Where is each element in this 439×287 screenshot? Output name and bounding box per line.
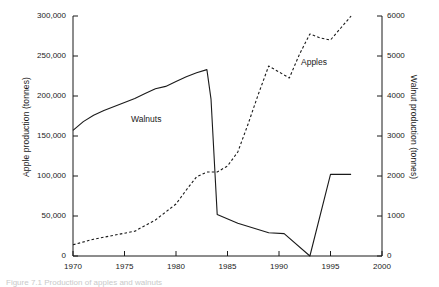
x-axis-tick-label: 2000 [362, 262, 402, 271]
y-axis-right-ticks [377, 16, 382, 256]
x-axis-tick-label: 1980 [156, 262, 196, 271]
series-annotation-apples: Apples [301, 57, 327, 67]
y-axis-right-tick-label: 3000 [387, 131, 427, 140]
y-axis-right-tick-label: 2000 [387, 171, 427, 180]
x-axis-tick-label: 1995 [311, 262, 351, 271]
x-axis-tick-label: 1970 [53, 262, 93, 271]
x-axis-tick-label: 1990 [259, 262, 299, 271]
y-axis-right-tick-label: 4000 [387, 91, 427, 100]
y-axis-left-tick-label: 100,000 [18, 171, 66, 180]
y-axis-left-tick-label: 250,000 [18, 51, 66, 60]
x-axis-ticks [73, 251, 382, 256]
figure-caption-text: Figure 7.1 Production of apples and waln… [6, 279, 162, 287]
y-axis-right-tick-label: 5000 [387, 51, 427, 60]
figure-container: Apple production (tonnes) Walnut product… [0, 0, 439, 287]
y-axis-right-tick-label: 1000 [387, 211, 427, 220]
y-axis-left-tick-label: 300,000 [18, 11, 66, 20]
x-axis-tick-label: 1975 [105, 262, 145, 271]
figure-caption-clipped: Figure 7.1 Production of apples and waln… [0, 279, 439, 287]
series-line-walnuts [73, 70, 351, 256]
series-line-apples [73, 16, 351, 245]
y-axis-right-tick-label: 6000 [387, 11, 427, 20]
y-axis-left-tick-label: 0 [18, 251, 66, 260]
x-axis-tick-label: 1985 [208, 262, 248, 271]
y-axis-left-tick-label: 150,000 [18, 131, 66, 140]
y-axis-left-ticks [73, 16, 78, 256]
y-axis-right-tick-label: 0 [387, 251, 427, 260]
y-axis-left-tick-label: 50,000 [18, 211, 66, 220]
chart-plot [0, 0, 439, 287]
series-annotation-walnuts: Walnuts [131, 114, 161, 124]
y-axis-left-tick-label: 200,000 [18, 91, 66, 100]
